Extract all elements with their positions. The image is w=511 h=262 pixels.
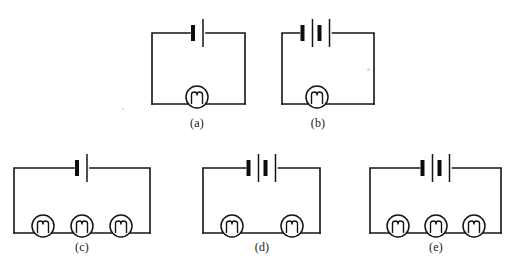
battery-cell-icon — [75, 154, 87, 182]
circuit-panel-d — [203, 154, 320, 237]
cell-negative-plate — [264, 160, 268, 176]
cell-negative-plate — [421, 160, 425, 176]
cell-negative-plate — [191, 25, 195, 41]
bulb-glass-circle — [71, 215, 93, 237]
panel-label-d: (d) — [255, 240, 270, 255]
light-bulb-icon — [463, 215, 485, 237]
scan-speck-1 — [122, 108, 124, 110]
battery-cell-icon — [247, 154, 276, 182]
panel-label-a: (a) — [190, 116, 204, 131]
bulb-glass-circle — [110, 215, 132, 237]
circuit-figure: (a)(b)(c)(d)(e) — [0, 0, 511, 262]
wire-left-branch — [282, 33, 300, 104]
cell-negative-plate — [318, 25, 322, 41]
bulb-glass-circle — [221, 215, 243, 237]
circuit-panel-b — [282, 19, 374, 108]
battery-cell-icon — [191, 19, 203, 47]
light-bulb-icon — [32, 215, 54, 237]
wire-left-branch — [152, 33, 190, 104]
wire-right-branch — [206, 33, 245, 104]
cell-negative-plate — [247, 160, 251, 176]
circuit-panel-c — [14, 154, 150, 237]
light-bulb-icon — [306, 86, 328, 108]
battery-cell-icon — [421, 154, 450, 182]
light-bulb-icon — [281, 215, 303, 237]
cell-negative-plate — [438, 160, 442, 176]
bulb-glass-circle — [306, 86, 328, 108]
panel-label-c: (c) — [75, 240, 89, 255]
light-bulb-icon — [425, 215, 447, 237]
bulb-glass-circle — [32, 215, 54, 237]
panel-label-b: (b) — [311, 116, 326, 131]
panel-label-e: (e) — [429, 240, 443, 255]
light-bulb-icon — [221, 215, 243, 237]
battery-cell-icon — [301, 19, 330, 47]
cell-negative-plate — [301, 25, 305, 41]
light-bulb-icon — [186, 86, 208, 108]
bulb-glass-circle — [387, 215, 409, 237]
light-bulb-icon — [110, 215, 132, 237]
circuit-panel-a — [152, 19, 245, 108]
scan-speck-0 — [367, 68, 370, 71]
light-bulb-icon — [71, 215, 93, 237]
circuit-panel-e — [370, 154, 501, 237]
cell-negative-plate — [75, 160, 79, 176]
circuit-canvas — [0, 0, 511, 262]
bulb-glass-circle — [186, 86, 208, 108]
light-bulb-icon — [387, 215, 409, 237]
bulb-glass-circle — [425, 215, 447, 237]
bulb-glass-circle — [463, 215, 485, 237]
bulb-glass-circle — [281, 215, 303, 237]
